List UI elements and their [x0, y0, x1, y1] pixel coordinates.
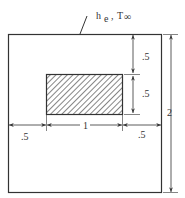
- boundary-label-sub: e: [104, 13, 109, 24]
- boundary-label-comma: ,: [111, 10, 114, 21]
- left-gap-label: .5: [21, 131, 29, 142]
- inner-width-label: 1: [83, 120, 88, 131]
- inner-hatched-region: [47, 75, 123, 115]
- right-gap-label: .5: [138, 129, 146, 140]
- inner-height-label: .5: [142, 88, 150, 99]
- total-height-label: 2: [167, 107, 172, 118]
- cross-section-diagram: h e T ∞ , .5 .5 2 .5 1 .5: [0, 0, 185, 198]
- top-gap-label: .5: [142, 51, 150, 62]
- boundary-label-inf: ∞: [124, 11, 131, 22]
- boundary-label-T: T: [117, 10, 123, 21]
- leader-line: [80, 16, 87, 34]
- boundary-label-h: h: [96, 10, 101, 21]
